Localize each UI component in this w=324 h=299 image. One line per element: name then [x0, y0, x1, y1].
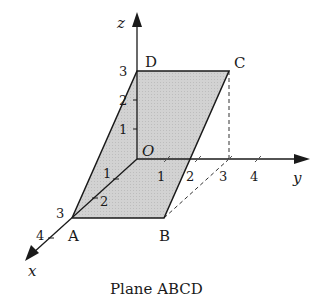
z-tick-label: 2 — [119, 93, 127, 108]
y-tick-label: 3 — [219, 169, 227, 184]
y-tick-label: 2 — [186, 169, 194, 184]
point-b-label: B — [159, 227, 170, 245]
z-tick-label: 1 — [119, 122, 127, 137]
x-axis-arrow-icon — [25, 245, 39, 261]
y-tick-label: 1 — [157, 169, 165, 184]
figure-caption: Plane ABCD — [110, 280, 203, 298]
origin-label: O — [142, 142, 154, 160]
x-tick-label: 2 — [100, 194, 108, 209]
x-tick-label: 4 — [36, 228, 44, 243]
z-axis-arrow-icon — [132, 12, 142, 27]
x-tick-label: 1 — [103, 166, 111, 181]
point-c-label: C — [234, 54, 245, 72]
y-axis-arrow-icon — [294, 154, 310, 164]
z-tick-label: 3 — [119, 64, 127, 79]
point-d-label: D — [145, 53, 157, 71]
point-a-label: A — [67, 227, 79, 245]
y-tick-label: 4 — [250, 169, 258, 184]
x-tick-label: 3 — [56, 206, 64, 221]
plane-abcd-diagram: z y x O 1 2 3 1 2 3 4 1 2 3 4 A B C D Pl… — [0, 0, 324, 299]
x-axis-label: x — [28, 262, 37, 280]
y-axis-label: y — [292, 169, 302, 187]
z-axis-label: z — [116, 14, 125, 32]
